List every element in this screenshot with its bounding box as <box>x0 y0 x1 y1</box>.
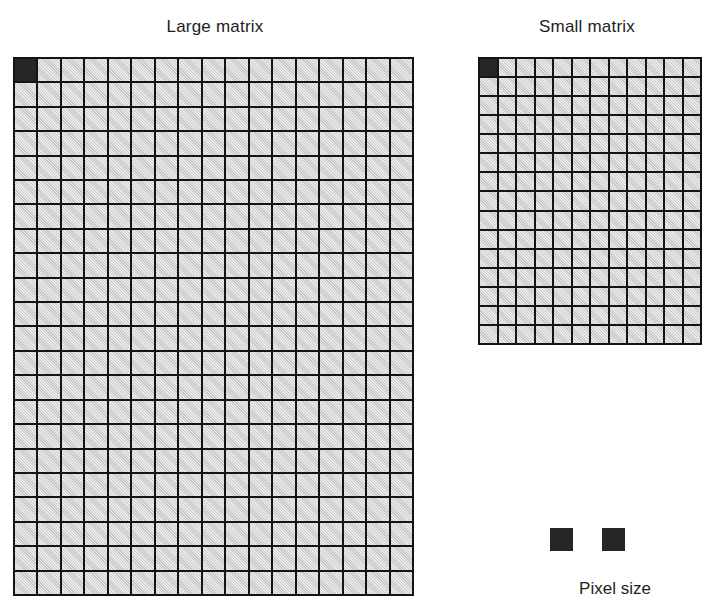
matrix-cell <box>367 132 388 154</box>
matrix-cell <box>62 547 83 569</box>
matrix-cell <box>367 279 388 301</box>
matrix-cell <box>554 250 571 267</box>
matrix-cell <box>591 288 608 305</box>
matrix-cell <box>344 181 365 203</box>
matrix-cell <box>665 135 682 152</box>
matrix-cell <box>647 231 664 248</box>
matrix-cell <box>132 59 153 81</box>
matrix-cell <box>665 212 682 229</box>
matrix-cell <box>38 108 59 130</box>
matrix-cell <box>647 97 664 114</box>
matrix-cell <box>132 572 153 594</box>
matrix-cell <box>344 108 365 130</box>
matrix-cell <box>226 279 247 301</box>
matrix-cell <box>344 474 365 496</box>
matrix-cell <box>367 352 388 374</box>
matrix-cell <box>203 157 224 179</box>
matrix-cell <box>203 401 224 423</box>
matrix-cell <box>367 181 388 203</box>
matrix-cell <box>391 376 412 398</box>
matrix-cell <box>250 132 271 154</box>
matrix-cell <box>320 523 341 545</box>
matrix-cell <box>85 279 106 301</box>
matrix-cell <box>203 108 224 130</box>
matrix-cell <box>38 157 59 179</box>
matrix-cell <box>15 401 36 423</box>
matrix-cell <box>156 157 177 179</box>
matrix-cell <box>273 108 294 130</box>
matrix-cell <box>38 401 59 423</box>
matrix-cell <box>517 173 534 190</box>
matrix-cell <box>665 154 682 171</box>
matrix-cell <box>15 132 36 154</box>
matrix-cell <box>610 212 627 229</box>
matrix-cell <box>367 376 388 398</box>
matrix-cell <box>610 307 627 324</box>
matrix-cell <box>480 288 497 305</box>
matrix-cell <box>226 327 247 349</box>
matrix-cell <box>62 279 83 301</box>
matrix-cell <box>226 230 247 252</box>
matrix-cell <box>250 401 271 423</box>
matrix-cell <box>15 450 36 472</box>
matrix-cell <box>179 157 200 179</box>
large-matrix-pixel-swatch <box>550 528 573 551</box>
matrix-cell <box>610 231 627 248</box>
matrix-cell <box>628 154 645 171</box>
matrix-cell <box>226 425 247 447</box>
matrix-cell <box>367 572 388 594</box>
matrix-cell <box>250 327 271 349</box>
matrix-cell <box>203 132 224 154</box>
large-matrix-grid <box>13 57 414 596</box>
matrix-cell <box>85 157 106 179</box>
matrix-cell <box>109 523 130 545</box>
matrix-cell <box>85 132 106 154</box>
matrix-cell <box>367 254 388 276</box>
matrix-cell <box>203 181 224 203</box>
matrix-cell <box>344 230 365 252</box>
matrix-cell <box>226 83 247 105</box>
matrix-cell <box>250 450 271 472</box>
matrix-cell <box>536 173 553 190</box>
matrix-cell <box>250 108 271 130</box>
matrix-cell <box>109 279 130 301</box>
matrix-cell <box>647 288 664 305</box>
matrix-cell <box>132 132 153 154</box>
matrix-cell <box>132 303 153 325</box>
matrix-cell <box>273 303 294 325</box>
matrix-cell <box>536 116 553 133</box>
matrix-cell <box>367 523 388 545</box>
matrix-cell <box>62 425 83 447</box>
matrix-cell <box>109 108 130 130</box>
matrix-cell <box>62 450 83 472</box>
matrix-cell <box>367 425 388 447</box>
matrix-cell <box>536 250 553 267</box>
matrix-cell <box>226 303 247 325</box>
matrix-cell <box>610 192 627 209</box>
matrix-cell <box>85 59 106 81</box>
matrix-cell <box>536 192 553 209</box>
matrix-cell <box>297 108 318 130</box>
matrix-cell <box>591 192 608 209</box>
matrix-cell <box>367 157 388 179</box>
matrix-cell <box>320 303 341 325</box>
matrix-cell <box>554 173 571 190</box>
matrix-cell <box>610 288 627 305</box>
matrix-cell <box>203 83 224 105</box>
matrix-cell <box>499 116 516 133</box>
matrix-cell <box>367 83 388 105</box>
matrix-cell <box>480 326 497 343</box>
matrix-cell <box>367 474 388 496</box>
matrix-cell <box>156 59 177 81</box>
matrix-cell <box>499 154 516 171</box>
matrix-cell <box>226 157 247 179</box>
matrix-cell <box>320 279 341 301</box>
matrix-cell <box>320 83 341 105</box>
matrix-cell <box>499 212 516 229</box>
matrix-cell <box>132 327 153 349</box>
matrix-cell <box>647 269 664 286</box>
matrix-cell <box>517 269 534 286</box>
matrix-cell <box>297 401 318 423</box>
matrix-cell <box>573 192 590 209</box>
matrix-cell <box>156 254 177 276</box>
